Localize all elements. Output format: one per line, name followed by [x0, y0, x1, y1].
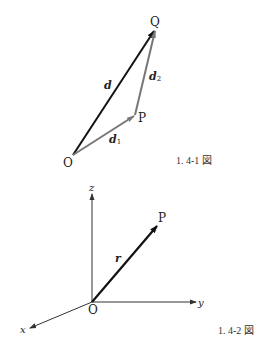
point-label-p: P	[138, 111, 146, 125]
point-label-o: O	[63, 156, 73, 170]
point-label-p2: P	[158, 211, 166, 225]
y-axis-label: y	[197, 297, 204, 308]
origin-label: O	[88, 303, 98, 317]
figure-1-4-2: z y x O P r 1. 4-2 図	[20, 182, 254, 336]
vector-label-r: r	[115, 252, 122, 265]
vector-d1-arrow	[73, 116, 134, 155]
z-axis-label: z	[88, 182, 95, 193]
x-axis	[30, 302, 92, 328]
diagram-canvas: Q P O d d1 d2 1. 4-1 図 z y x O	[0, 0, 268, 355]
figure-1-4-1: Q P O d d1 d2 1. 4-1 図	[63, 15, 212, 170]
figure-caption-2: 1. 4-2 図	[218, 325, 254, 336]
vector-label-d2: d2	[149, 70, 161, 83]
point-label-q: Q	[150, 15, 160, 29]
x-axis-label: x	[20, 324, 26, 335]
vector-label-d: d	[104, 79, 112, 92]
figure-caption-1: 1. 4-1 図	[176, 155, 212, 166]
vector-figures: Q P O d d1 d2 1. 4-1 図 z y x O	[0, 0, 268, 355]
vector-label-d1: d1	[109, 133, 121, 146]
vector-r-arrow	[92, 226, 157, 302]
